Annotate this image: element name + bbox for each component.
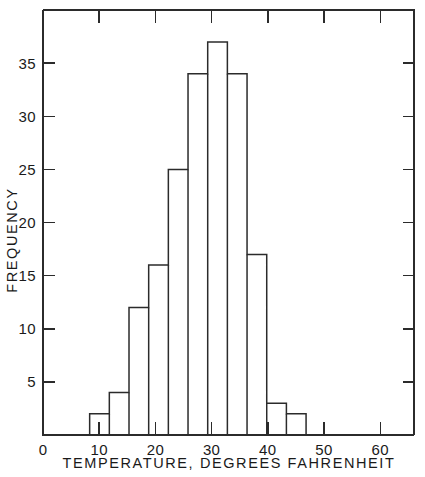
y-tick-label: 30 xyxy=(19,108,37,125)
histogram-bars xyxy=(90,42,306,435)
x-axis-title: TEMPERATURE, DEGREES FAHRENHEIT xyxy=(63,455,396,471)
histogram-outline xyxy=(90,42,306,435)
histogram-figure: 5101520253035 0102030405060 TEMPERATURE,… xyxy=(0,0,425,477)
histogram-chart: 5101520253035 0102030405060 TEMPERATURE,… xyxy=(0,0,425,477)
y-tick-label: 10 xyxy=(19,320,37,337)
y-tick-label: 25 xyxy=(19,161,37,178)
y-tick-label: 35 xyxy=(19,55,37,72)
x-axis-ticks: 0102030405060 xyxy=(39,10,389,458)
y-tick-label: 15 xyxy=(19,267,37,284)
y-tick-label: 20 xyxy=(19,214,37,231)
y-axis-title: FREQUENCY xyxy=(4,187,20,292)
y-axis-ticks: 5101520253035 xyxy=(19,55,415,391)
y-tick-label: 5 xyxy=(27,373,36,390)
x-tick-label: 0 xyxy=(39,441,48,458)
